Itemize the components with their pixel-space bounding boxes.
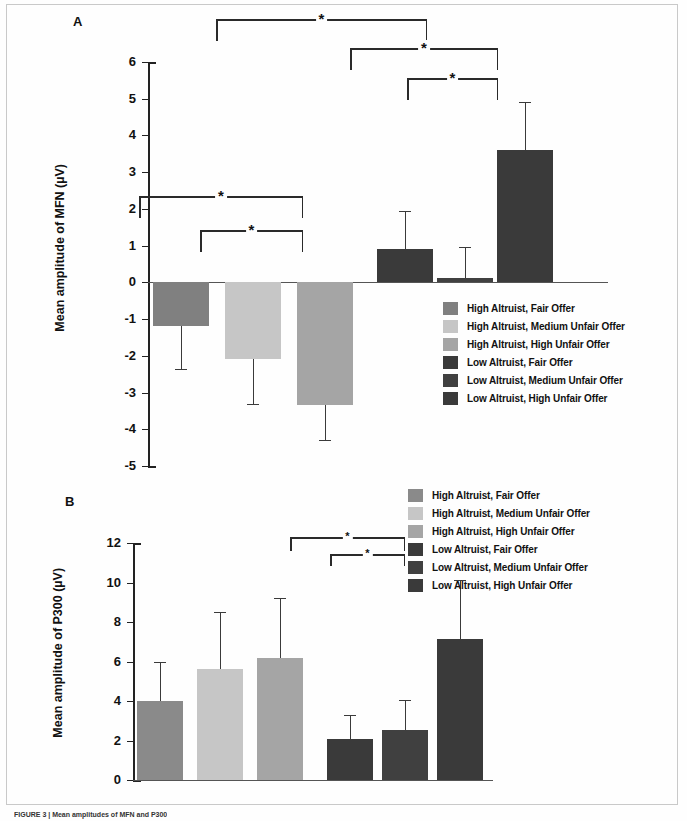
y-tick-mark	[127, 741, 133, 742]
error-bar-cap-4	[459, 247, 471, 248]
legend-a-label-2: High Altruist, High Unfair Offer	[467, 339, 610, 350]
zero-baseline	[133, 780, 493, 781]
y-tick-label: 0	[110, 274, 136, 289]
bracket-left-leg	[200, 230, 202, 252]
y-tick-mark	[127, 543, 133, 544]
legend-b-label-5: Low Altruist, High Unfair Offer	[432, 580, 572, 591]
significance-bracket: *	[139, 196, 303, 218]
bracket-right-leg	[404, 537, 406, 551]
legend-a-label-3: Low Altruist, Fair Offer	[467, 357, 573, 368]
bar-3	[327, 739, 373, 780]
legend-b-swatch-3	[408, 543, 423, 556]
y-tick-label: 2	[110, 201, 136, 216]
legend-b-label-1: High Altruist, Medium Unfair Offer	[432, 508, 590, 519]
significance-bracket: *	[200, 230, 303, 252]
legend-a-swatch-1	[443, 320, 458, 333]
significance-bracket: *	[407, 78, 498, 100]
bar-3	[377, 249, 433, 282]
y-tick-mark	[142, 429, 148, 430]
error-bar-4	[405, 700, 406, 730]
error-bar-2	[325, 405, 326, 440]
y-axis-line	[133, 543, 135, 781]
legend-a-swatch-2	[443, 338, 458, 351]
error-bar-1	[220, 612, 221, 669]
y-tick-mark	[142, 319, 148, 320]
significance-asterisk: *	[246, 222, 258, 237]
error-bar-4	[465, 247, 466, 278]
significance-asterisk: *	[215, 188, 227, 203]
error-bar-0	[160, 662, 161, 701]
bar-0	[153, 282, 209, 326]
bracket-right-leg	[426, 19, 428, 41]
bracket-right-leg	[302, 196, 304, 218]
legend-b-label-3: Low Altruist, Fair Offer	[432, 544, 538, 555]
significance-asterisk: *	[418, 40, 430, 55]
error-bar-cap-0	[175, 369, 187, 370]
y-tick-label: 4	[95, 693, 121, 708]
legend-a-swatch-3	[443, 356, 458, 369]
y-tick-label: 1	[110, 238, 136, 253]
y-tick-label: -3	[110, 385, 136, 400]
y-tick-label: 6	[95, 654, 121, 669]
error-bar-cap-2	[274, 598, 286, 599]
error-bar-cap-1	[247, 404, 259, 405]
legend-a-row-5: Low Altruist, High Unfair Offer	[443, 390, 625, 407]
bar-2	[257, 658, 303, 780]
bracket-left-leg	[330, 554, 332, 566]
bar-0	[137, 701, 183, 780]
legend-b-swatch-0	[408, 489, 423, 502]
significance-bracket: *	[290, 537, 405, 551]
error-bar-cap-3	[344, 715, 356, 716]
bar-2	[297, 282, 353, 405]
legend-a-row-0: High Altruist, Fair Offer	[443, 300, 625, 317]
y-tick-mark	[142, 62, 148, 63]
bar-5	[497, 150, 553, 282]
y-axis-top-cap	[133, 543, 141, 545]
legend-b-swatch-5	[408, 579, 423, 592]
legend-a-swatch-4	[443, 374, 458, 387]
y-tick-label: 12	[95, 535, 121, 550]
bracket-left-leg	[139, 196, 141, 218]
figure-caption: FIGURE 3 | Mean amplitudes of MFN and P3…	[14, 811, 167, 820]
y-tick-mark	[127, 701, 133, 702]
y-tick-mark	[142, 466, 148, 467]
legend-a-label-0: High Altruist, Fair Offer	[467, 303, 575, 314]
bracket-left-leg	[290, 537, 292, 551]
legend-b-row-5: Low Altruist, High Unfair Offer	[408, 577, 590, 594]
bar-1	[197, 669, 243, 780]
legend-b-swatch-1	[408, 507, 423, 520]
y-tick-mark	[127, 662, 133, 663]
error-bar-2	[280, 598, 281, 657]
y-tick-label: 0	[95, 772, 121, 787]
significance-asterisk: *	[447, 70, 459, 85]
legend-b-row-0: High Altruist, Fair Offer	[408, 487, 590, 504]
y-axis-line	[148, 62, 150, 467]
y-tick-label: -5	[110, 458, 136, 473]
legend-b-row-2: High Altruist, High Unfair Offer	[408, 523, 590, 540]
bracket-right-leg	[497, 78, 499, 100]
legend-b-row-4: Low Altruist, Medium Unfair Offer	[408, 559, 590, 576]
bracket-left-leg	[216, 19, 218, 41]
significance-asterisk: *	[342, 531, 352, 542]
legend-b-label-0: High Altruist, Fair Offer	[432, 490, 540, 501]
y-tick-label: 3	[110, 164, 136, 179]
bar-5	[437, 639, 483, 780]
y-tick-label: 6	[110, 54, 136, 69]
y-tick-mark	[142, 393, 148, 394]
y-tick-mark	[142, 246, 148, 247]
error-bar-cap-4	[399, 700, 411, 701]
error-bar-3	[405, 211, 406, 250]
legend-a-label-4: Low Altruist, Medium Unfair Offer	[467, 375, 623, 386]
bracket-right-leg	[302, 230, 304, 252]
legend-a-row-3: Low Altruist, Fair Offer	[443, 354, 625, 371]
y-tick-label: -4	[110, 421, 136, 436]
bracket-right-leg	[497, 48, 499, 70]
legend-a-label-1: High Altruist, Medium Unfair Offer	[467, 321, 625, 332]
legend-b-row-3: Low Altruist, Fair Offer	[408, 541, 590, 558]
y-tick-label: -1	[110, 311, 136, 326]
legend-b-swatch-4	[408, 561, 423, 574]
y-tick-mark	[142, 99, 148, 100]
significance-bracket: *	[216, 19, 427, 41]
panel-a: A Mean amplitude of MFN (µV) 6543210-1-2…	[0, 0, 687, 480]
figure-page: A Mean amplitude of MFN (µV) 6543210-1-2…	[0, 0, 687, 821]
